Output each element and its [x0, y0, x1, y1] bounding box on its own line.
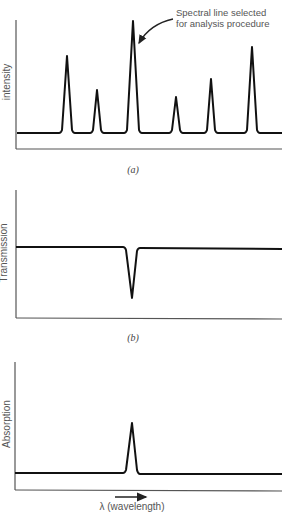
x-axis-b [16, 318, 282, 319]
y-label-c: Absorption [1, 400, 12, 448]
panel-a: intensity Spectral line selected for ana… [1, 7, 282, 176]
emission-spectrum-trace [17, 21, 282, 133]
annotation-arrow [139, 19, 173, 43]
y-label-b: Transmission [0, 223, 9, 282]
panel-b: Transmission (b) [0, 190, 282, 344]
transmission-trace [16, 247, 282, 298]
x-axis-c [15, 490, 282, 491]
annotation-line-1: Spectral line selected [176, 7, 266, 18]
absorption-trace [15, 423, 282, 474]
caption-a: (a) [127, 164, 139, 176]
annotation-line-2: for analysis procedure [176, 18, 269, 29]
caption-b: (b) [127, 332, 139, 344]
y-label-a: intensity [1, 64, 12, 101]
spectra-diagram: intensity Spectral line selected for ana… [0, 0, 285, 523]
x-label-c: λ (wavelength) [99, 501, 164, 512]
panel-c: Absorption λ (wavelength) [1, 362, 282, 512]
